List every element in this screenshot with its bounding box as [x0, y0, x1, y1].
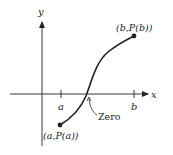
- x-axis-label: x: [151, 89, 157, 100]
- point-b-label: (b,P(b)): [116, 22, 153, 33]
- point-a-label: (a,P(a)): [43, 130, 79, 141]
- y-axis-label: y: [37, 6, 44, 17]
- point-b: [132, 34, 137, 39]
- tick-b-label: b: [131, 101, 137, 112]
- point-a: [58, 123, 63, 128]
- ivt-diagram: y x a b (b,P(b)) (a,P(a)) Zero: [0, 0, 173, 155]
- zero-pointer-arrow: [89, 99, 97, 115]
- tick-a-label: a: [58, 101, 64, 112]
- function-curve: [60, 36, 134, 125]
- zero-label: Zero: [98, 111, 121, 122]
